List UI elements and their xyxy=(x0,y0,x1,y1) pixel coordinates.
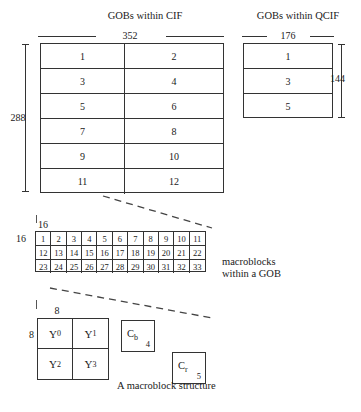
chroma-block-cr-label: Cr xyxy=(178,360,188,374)
macroblock-cell: 26 xyxy=(82,260,97,273)
luma-block-index: 0 xyxy=(57,329,61,338)
luma-block-index: 3 xyxy=(92,360,96,369)
gob-width-tick xyxy=(36,215,37,223)
luma-block: Y2 xyxy=(38,349,73,379)
luma-block: Y3 xyxy=(73,349,108,379)
luma-block-group: Y0 Y1 Y2 Y3 xyxy=(37,318,109,380)
macroblock-cell: 21 xyxy=(174,246,189,259)
macroblock-cell: 27 xyxy=(97,260,112,273)
macroblock-cell: 23 xyxy=(36,260,51,273)
macroblock-cell: 7 xyxy=(128,232,143,245)
macroblock-cell: 10 xyxy=(174,232,189,245)
gob-height-label: 16 xyxy=(16,233,32,244)
luma-block-label: Y xyxy=(49,358,57,370)
luma-block-index: 2 xyxy=(57,360,61,369)
macroblock-cell: 14 xyxy=(67,246,82,259)
macroblock-structure-caption: A macroblock structure xyxy=(117,380,216,391)
macroblock-cell: 15 xyxy=(82,246,97,259)
macroblock-cell: 1 xyxy=(36,232,51,245)
macroblock-row: 12 13 14 15 16 17 18 19 20 21 22 xyxy=(36,246,205,260)
macroblock-cell: 24 xyxy=(51,260,66,273)
luma-block-label: Y xyxy=(49,328,57,340)
macroblock-cell: 8 xyxy=(144,232,159,245)
macroblock-cell: 19 xyxy=(144,246,159,259)
macroblock-cell: 29 xyxy=(128,260,143,273)
macroblock-cell: 25 xyxy=(67,260,82,273)
macroblock-width-label: 8 xyxy=(50,305,64,316)
figure-canvas: GOBs within CIF 352 288 1 2 3 4 5 6 7 8 … xyxy=(0,0,361,412)
macroblock-cell: 22 xyxy=(190,246,205,259)
macroblock-cell: 16 xyxy=(97,246,112,259)
macroblock-cell: 32 xyxy=(174,260,189,273)
macroblock-row: 1 2 3 4 5 6 7 8 9 10 11 xyxy=(36,232,205,246)
luma-block-label: Y xyxy=(85,358,93,370)
macroblock-cell: 5 xyxy=(97,232,112,245)
macroblock-cell: 3 xyxy=(67,232,82,245)
macroblocks-note-line1: macroblocks xyxy=(222,256,281,268)
luma-block: Y0 xyxy=(38,319,73,349)
macroblocks-note: macroblocks within a GOB xyxy=(222,256,281,280)
macroblock-row: 23 24 25 26 27 28 29 30 31 32 33 xyxy=(36,260,205,273)
chroma-block-cb: Cb 4 xyxy=(121,320,155,352)
macroblock-height-label: 8 xyxy=(20,329,34,340)
luma-block-label: Y xyxy=(85,328,93,340)
macroblock-cell: 9 xyxy=(159,232,174,245)
macroblock-cell: 20 xyxy=(159,246,174,259)
macroblock-cell: 13 xyxy=(51,246,66,259)
macroblocks-note-line2: within a GOB xyxy=(222,268,281,280)
macroblock-cell: 6 xyxy=(113,232,128,245)
macroblock-cell: 2 xyxy=(51,232,66,245)
macroblock-cell: 17 xyxy=(113,246,128,259)
macroblock-cell: 4 xyxy=(82,232,97,245)
macroblock-cell: 33 xyxy=(190,260,205,273)
luma-block: Y1 xyxy=(73,319,108,349)
luma-block-index: 1 xyxy=(92,329,96,338)
gob-macroblock-grid: 1 2 3 4 5 6 7 8 9 10 11 12 13 14 15 16 1… xyxy=(35,231,206,272)
chroma-block-cb-label: Cb xyxy=(127,328,138,342)
macroblock-width-tick xyxy=(36,300,37,309)
macroblock-cell: 12 xyxy=(36,246,51,259)
macroblock-cell: 11 xyxy=(190,232,205,245)
macroblock-cell: 28 xyxy=(113,260,128,273)
macroblock-cell: 30 xyxy=(144,260,159,273)
chroma-block-cb-index: 4 xyxy=(146,339,150,349)
macroblock-cell: 18 xyxy=(128,246,143,259)
macroblock-cell: 31 xyxy=(159,260,174,273)
gob-width-label: 16 xyxy=(38,219,54,230)
